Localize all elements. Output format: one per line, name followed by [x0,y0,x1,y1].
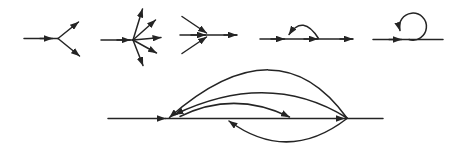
out-arrow-down [133,40,157,53]
under-arc [229,119,347,142]
return-arc-inner [175,93,347,118]
return-arc-outer [170,70,348,118]
out-arrow-up [58,22,79,39]
figure [0,0,460,154]
diagram-line-with-self-loop [373,13,443,40]
in-arrow-lower [182,37,207,54]
in-arrow-upper [182,17,207,34]
self-loop [399,13,426,40]
diagram-fan-five-out [101,9,161,66]
out-arrow-down [58,39,80,57]
backward-arc [289,25,319,38]
diagram-long-line-with-arcs [108,70,383,142]
diagram-branch-two-out [24,22,80,56]
out-arrow-steep-down [133,40,143,66]
figure-canvas [0,0,460,154]
diagram-line-with-back-arc [260,25,353,39]
diagram-converge-three-in [180,17,237,54]
out-arrow-right [133,38,161,41]
